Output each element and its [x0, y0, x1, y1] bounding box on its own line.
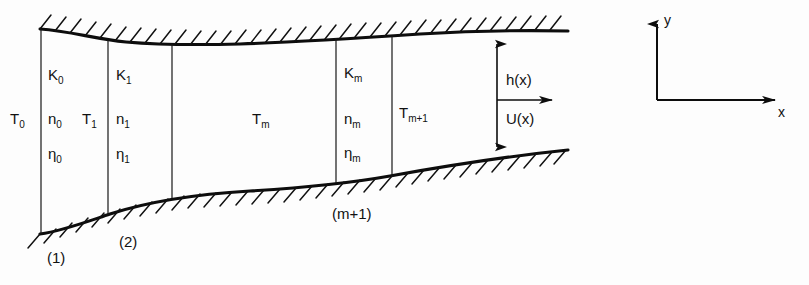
labels-group: T0 K0 n0 η0 T1 K1 n1 η1 Tm Km nm ηm Tm+1 [10, 64, 428, 165]
bottom-wall-curve [40, 150, 568, 234]
section-dividers [41, 29, 392, 234]
velocity-annotation-group: U(x) [497, 100, 552, 127]
label-nm: nm [344, 110, 361, 130]
station-label-2: (2) [119, 233, 137, 250]
label-eta0: η0 [48, 145, 62, 165]
label-T1: T1 [82, 110, 97, 130]
station-labels-group: (1) (2) (m+1) [47, 205, 372, 266]
y-axis-label: y [664, 12, 671, 28]
station-label-m-plus-1: (m+1) [332, 205, 372, 222]
bottom-wall-group [28, 150, 568, 248]
height-annotation-group: h(x) [497, 44, 532, 147]
top-wall-group [40, 15, 568, 45]
label-Tm: Tm [252, 110, 270, 130]
x-axis-label: x [778, 104, 785, 120]
label-eta1: η1 [116, 145, 130, 165]
label-n0: n0 [48, 110, 62, 130]
label-K0: K0 [48, 66, 64, 86]
label-Tm-plus-1: Tm+1 [399, 104, 428, 124]
height-label: h(x) [506, 71, 532, 88]
velocity-label: U(x) [506, 110, 534, 127]
figure-canvas: T0 K0 n0 η0 T1 K1 n1 η1 Tm Km nm ηm Tm+1… [0, 0, 809, 285]
label-T0: T0 [10, 110, 25, 130]
coordinate-axes-group: y x [657, 12, 785, 120]
bottom-wall-hatching [28, 150, 566, 248]
channel-flow-diagram: T0 K0 n0 η0 T1 K1 n1 η1 Tm Km nm ηm Tm+1… [0, 0, 809, 285]
label-n1: n1 [116, 110, 130, 130]
label-K1: K1 [116, 66, 132, 86]
station-label-1: (1) [47, 249, 65, 266]
label-etam: ηm [344, 144, 361, 164]
label-Km: Km [344, 64, 362, 84]
